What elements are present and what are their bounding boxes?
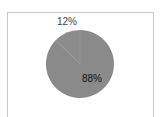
slice-label-12: 12% [57, 17, 77, 27]
slice-label-88: 88% [82, 74, 102, 84]
pie-chart [0, 0, 164, 117]
